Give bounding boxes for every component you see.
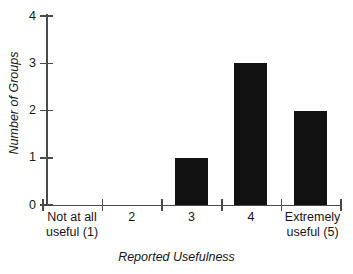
bars-layer [0, 0, 353, 205]
bar-category-5 [294, 111, 327, 206]
x-category-label-3: 3 [161, 210, 221, 225]
bar-chart-figure: 4 3 2 1 0 Not at all useful (1) 2 3 4 Ex… [0, 0, 353, 274]
x-category-label-4: 4 [221, 210, 281, 225]
bar-category-3 [175, 158, 208, 205]
x-axis-title: Reported Usefulness [0, 250, 353, 264]
x-category-label-2: 2 [102, 210, 162, 225]
bar-category-4 [234, 63, 267, 205]
x-category-label-5: Extremely useful (5) [280, 210, 346, 239]
y-axis-title: Number of Groups [7, 33, 21, 173]
x-category-label-1: Not at all useful (1) [42, 210, 102, 239]
